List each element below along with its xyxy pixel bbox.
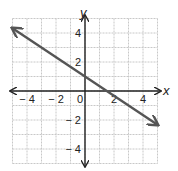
y-tick-label: − 4 xyxy=(65,143,81,155)
y-tick-label: 2 xyxy=(75,56,81,68)
x-tick-label: − 2 xyxy=(48,93,64,105)
x-axis-label: x xyxy=(162,83,170,98)
coordinate-plane: − 4− 202442− 2− 4 x y xyxy=(0,0,178,171)
x-tick-label: 4 xyxy=(140,93,146,105)
y-tick-label: 4 xyxy=(75,27,81,39)
y-tick-label: − 2 xyxy=(65,114,81,126)
x-tick-label: 0 xyxy=(77,93,83,105)
x-tick-label: − 4 xyxy=(19,93,35,105)
axes xyxy=(11,16,161,167)
y-axis-label: y xyxy=(79,5,88,20)
